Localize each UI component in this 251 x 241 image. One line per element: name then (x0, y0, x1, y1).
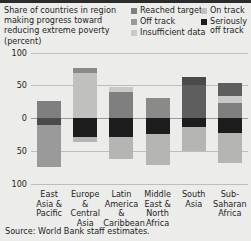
legend-item-on_track: On track (201, 6, 251, 16)
bar-segment-reached_target (37, 101, 61, 118)
legend-swatch-insufficient_data (131, 30, 137, 36)
y-tick-label-1: 50 (5, 80, 27, 90)
legend-item-off_track: Off track (131, 17, 201, 27)
bar-group (31, 46, 248, 187)
bar-segment-off_track (37, 125, 61, 168)
bar-5 (218, 46, 242, 187)
legend-item-reached_target: Reached target (131, 6, 201, 16)
y-tick-label-3: 50 (5, 146, 27, 156)
legend-label-off_track: Off track (140, 17, 175, 27)
bar-segment-off_track (109, 137, 133, 159)
source-note: Source: World Bank staff estimates. (5, 226, 150, 236)
x-tick-label-2: Latin America & Caribbean (103, 190, 139, 228)
x-axis-labels: East Asia & PacificEurope & Central Asia… (31, 190, 248, 226)
bar-segment-reached_target (146, 98, 170, 118)
bar-segment-on_track (182, 85, 206, 118)
bar-segment-on_track (73, 73, 97, 118)
x-tick-label-5: Sub-Saharan Africa (212, 190, 248, 219)
figure: Share of countries in region making prog… (0, 0, 251, 241)
bar-0 (37, 46, 61, 187)
y-tick-label-4: 100 (5, 179, 27, 189)
legend-swatch-off_track (131, 19, 137, 25)
x-tick-label-0: East Asia & Pacific (31, 190, 67, 219)
bar-1 (73, 46, 97, 187)
legend-label-reached_target: Reached target (140, 6, 202, 16)
bar-segment-insufficient_data (73, 68, 97, 73)
legend-swatch-seriously_off_track (201, 19, 207, 25)
bar-segment-off_track (218, 133, 242, 163)
bar-4 (182, 46, 206, 187)
x-tick-label-1: Europe & Central Asia (67, 190, 103, 228)
top-rule (0, 0, 251, 3)
legend-item-seriously_off_track: Seriously off track (201, 17, 251, 27)
bar-segment-on_track (109, 87, 133, 92)
plot-area (31, 46, 248, 187)
legend-label-seriously_off_track: Seriously off track (210, 17, 251, 36)
legend-column-right: On trackSeriously off track (201, 6, 251, 28)
x-tick-label-4: South Asia (176, 190, 212, 209)
y-tick-label-0: 100 (5, 48, 27, 58)
bar-segment-seriously_off_track (73, 118, 97, 137)
bar-segment-seriously_off_track (218, 118, 242, 133)
legend-item-insufficient_data: Insufficient data (131, 28, 201, 38)
bar-segment-seriously_off_track (109, 118, 133, 137)
bar-segment-seriously_off_track (146, 118, 170, 134)
chart-title: Share of countries in region making prog… (4, 5, 130, 46)
legend-swatch-reached_target (131, 8, 137, 14)
bar-3 (146, 46, 170, 187)
bar-segment-insufficient_data (218, 83, 242, 97)
bar-segment-seriously_off_track (182, 118, 206, 127)
bar-segment-reached_target (182, 77, 206, 86)
y-tick-label-2: 0 (5, 113, 27, 123)
bar-segment-on_track (218, 96, 242, 103)
chart-header: Share of countries in region making prog… (4, 5, 247, 38)
bar-segment-off_track (73, 137, 97, 142)
legend-label-on_track: On track (210, 6, 245, 16)
bar-segment-off_track (146, 134, 170, 164)
legend-column-left: Reached targetOff trackInsufficient data (131, 6, 201, 39)
bar-segment-off_track (182, 127, 206, 152)
bar-segment-reached_target (109, 92, 133, 118)
x-tick-label-3: Middle East & North Africa (140, 190, 176, 228)
legend-swatch-on_track (201, 8, 207, 14)
legend-label-insufficient_data: Insufficient data (140, 28, 205, 38)
bar-segment-reached_target (218, 103, 242, 118)
bar-2 (109, 46, 133, 187)
